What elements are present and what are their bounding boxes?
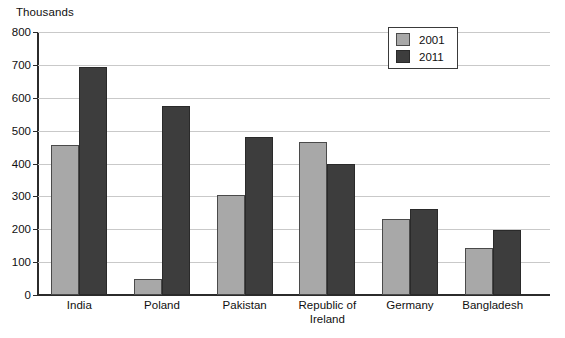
x-axis-label-republic-of-ireland: Republic of Ireland — [286, 299, 369, 326]
y-axis-tick-label: 600 — [12, 92, 31, 104]
x-axis-label-poland: Poland — [121, 299, 204, 313]
legend-item-2001: 2001 — [396, 33, 445, 46]
bar-group — [134, 32, 190, 295]
bar-2001-india — [51, 145, 79, 295]
y-axis-tick-label: 700 — [12, 59, 31, 71]
bar-group — [382, 32, 438, 295]
y-axis-tick-label: 100 — [12, 256, 31, 268]
bar-group — [51, 32, 107, 295]
bar-chart: Thousands 0100200300400500600700800 Indi… — [0, 0, 565, 338]
bar-2001-bangladesh — [465, 248, 493, 295]
y-axis-unit-caption: Thousands — [16, 6, 74, 18]
bar-2011-poland — [162, 106, 190, 295]
x-axis-label-bangladesh: Bangladesh — [451, 299, 534, 313]
bar-2001-republic-of-ireland — [299, 142, 327, 295]
legend-label-2011: 2011 — [419, 51, 444, 63]
x-axis-category-labels: IndiaPolandPakistanRepublic of IrelandGe… — [38, 299, 550, 337]
y-axis-tick-label: 800 — [12, 26, 31, 38]
bar-2001-pakistan — [217, 195, 245, 295]
x-axis-label-india: India — [38, 299, 121, 313]
y-axis-tick-label: 0 — [25, 289, 31, 301]
bars-layer — [38, 32, 550, 295]
legend: 2001 2011 — [388, 27, 458, 69]
y-axis-tick — [33, 295, 38, 296]
legend-item-2011: 2011 — [396, 50, 445, 63]
bar-group — [299, 32, 355, 295]
bar-2011-pakistan — [245, 137, 273, 295]
legend-swatch-icon-2011 — [396, 50, 410, 63]
bar-2011-bangladesh — [493, 230, 521, 295]
bar-group — [465, 32, 521, 295]
bar-2011-germany — [410, 209, 438, 295]
bar-2001-germany — [382, 219, 410, 295]
bar-group — [217, 32, 273, 295]
plot-area: 0100200300400500600700800 — [38, 32, 550, 295]
bar-2011-india — [79, 67, 107, 295]
y-axis-tick-label: 500 — [12, 125, 31, 137]
legend-swatch-icon-2001 — [396, 33, 410, 46]
y-axis-tick-label: 200 — [12, 223, 31, 235]
x-axis-label-pakistan: Pakistan — [203, 299, 286, 313]
bar-2001-poland — [134, 279, 162, 295]
y-axis-tick-label: 300 — [12, 190, 31, 202]
x-axis-label-germany: Germany — [369, 299, 452, 313]
y-axis-tick-label: 400 — [12, 158, 31, 170]
bar-2011-republic-of-ireland — [327, 164, 355, 296]
legend-label-2001: 2001 — [419, 34, 445, 46]
